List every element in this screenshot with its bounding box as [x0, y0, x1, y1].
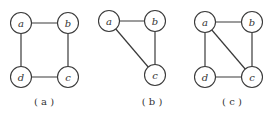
- svg-text:d: d: [202, 72, 208, 83]
- node-c: c: [58, 67, 79, 88]
- svg-text:a: a: [18, 18, 24, 29]
- graph-figures: a b c d ( a ) a b c ( b ) a b c d ( c ): [0, 0, 271, 117]
- node-c: c: [242, 67, 263, 88]
- caption-a: ( a ): [34, 96, 54, 107]
- svg-text:c: c: [65, 72, 71, 83]
- node-b: b: [242, 12, 263, 33]
- svg-text:d: d: [18, 72, 24, 83]
- svg-text:b: b: [65, 18, 71, 29]
- figure-a: a b c d ( a ): [11, 13, 79, 107]
- svg-text:a: a: [202, 17, 208, 28]
- svg-text:b: b: [249, 17, 255, 28]
- node-a: a: [11, 13, 32, 34]
- svg-text:c: c: [249, 72, 255, 83]
- node-c: c: [145, 65, 166, 86]
- figure-c: a b c d ( c ): [195, 12, 263, 107]
- caption-b: ( b ): [142, 96, 163, 107]
- caption-c: ( c ): [222, 96, 242, 107]
- svg-text:b: b: [152, 16, 158, 27]
- node-a: a: [99, 11, 120, 32]
- node-a: a: [195, 12, 216, 33]
- node-b: b: [145, 11, 166, 32]
- svg-text:c: c: [152, 70, 158, 81]
- node-d: d: [195, 67, 216, 88]
- node-d: d: [11, 67, 32, 88]
- figure-b: a b c ( b ): [99, 11, 166, 107]
- svg-text:a: a: [106, 16, 112, 27]
- node-b: b: [58, 13, 79, 34]
